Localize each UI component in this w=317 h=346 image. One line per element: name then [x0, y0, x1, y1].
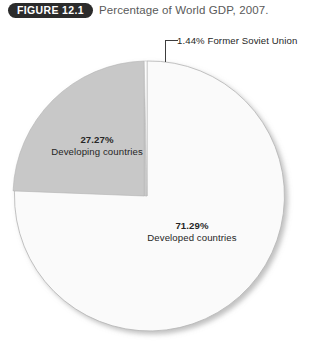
pie-label-developing: 27.27% Developing countries — [31, 134, 163, 159]
pie-slice-former-soviet-union[interactable] — [144, 61, 147, 196]
pie-label-developed-name: Developed countries — [126, 232, 258, 244]
figure-title: Percentage of World GDP, 2007. — [99, 2, 268, 19]
pie-slice-developing[interactable] — [13, 61, 144, 196]
figure-header: FIGURE 12.1 Percentage of World GDP, 200… — [0, 0, 317, 24]
pie-label-developing-name: Developing countries — [31, 146, 163, 158]
figure-number-badge: FIGURE 12.1 — [8, 3, 93, 18]
pie-chart: 27.27% Developing countries 71.29% Devel… — [0, 24, 317, 346]
pie-label-developing-percent: 27.27% — [31, 134, 163, 146]
pie-label-developed-percent: 71.29% — [126, 220, 258, 232]
pie-label-former-soviet-union: 1.44% Former Soviet Union — [177, 35, 297, 47]
pie-label-developed: 71.29% Developed countries — [126, 220, 258, 245]
callout-leader-line — [164, 40, 178, 62]
pie-chart-svg — [0, 24, 317, 346]
callout-leader-vertical — [165, 40, 166, 62]
pie-slices-group — [13, 61, 284, 331]
